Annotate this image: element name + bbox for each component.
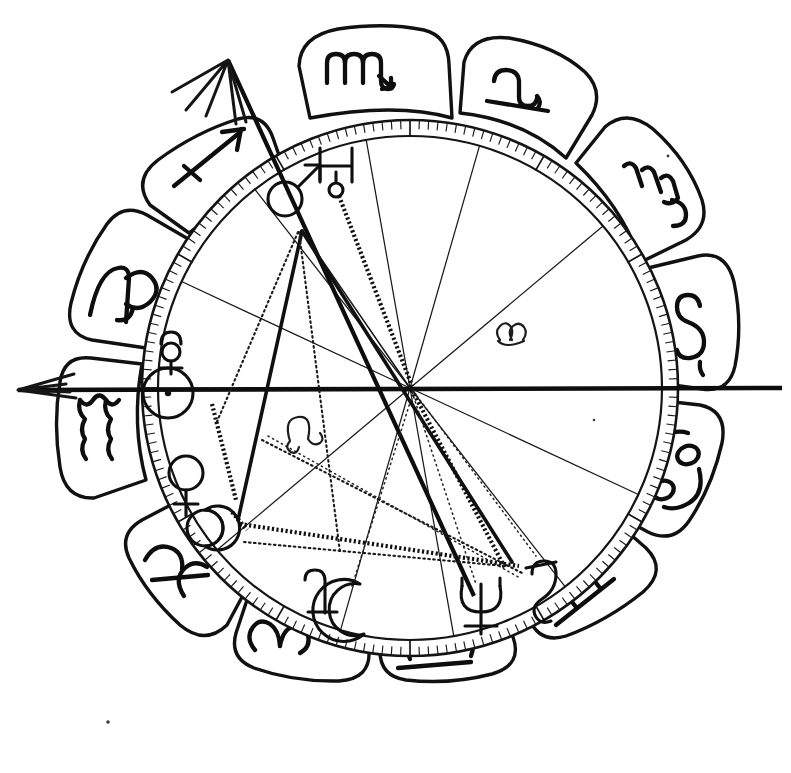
midheaven-arrow-icon xyxy=(172,60,246,124)
zodiac-petal-aquarius[interactable] xyxy=(57,358,147,498)
degree-tick xyxy=(391,646,392,655)
degree-tick xyxy=(428,121,429,130)
degree-tick xyxy=(668,369,677,370)
sun-center-dot-icon xyxy=(165,390,171,396)
degree-tick xyxy=(668,406,677,407)
degree-tick xyxy=(428,646,429,655)
natal-chart-wheel xyxy=(0,0,791,773)
natal-chart-canvas: Hand-drawn Astrological Natal Chart Whee… xyxy=(0,0,791,773)
degree-tick xyxy=(391,121,392,130)
degree-tick xyxy=(143,369,152,370)
zodiac-petal-scorpio[interactable] xyxy=(299,26,452,118)
